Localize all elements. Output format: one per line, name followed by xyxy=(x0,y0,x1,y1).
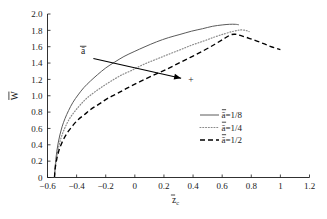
x-tick-label: 1 xyxy=(278,181,283,191)
y-tick-label: 1.6 xyxy=(31,42,43,52)
legend: ā=1/8ā=1/4ā=1/2 xyxy=(200,110,243,146)
y-tick-label: 2.0 xyxy=(31,9,43,19)
annotation-arrow-line xyxy=(93,59,181,79)
series-line-3 xyxy=(54,34,280,177)
y-tick-label: 0.8 xyxy=(31,107,43,117)
y-tick-label: 1.8 xyxy=(31,26,43,36)
a-bar-annotation-label: ā xyxy=(81,46,86,56)
y-axis-title: W xyxy=(10,91,20,100)
y-tick-label: 0.4 xyxy=(31,140,43,150)
annotations-layer: ā+ xyxy=(80,46,194,85)
x-tick-label: 0.4 xyxy=(187,181,199,191)
figure-container: 00.20.40.60.81.01.21.41.61.82.0−0.6−0.4−… xyxy=(0,0,327,219)
legend-label-3: ā=1/2 xyxy=(222,135,243,145)
tick-marks-layer xyxy=(48,14,310,178)
x-axis-title: zc xyxy=(172,195,179,206)
y-tick-label: 0.6 xyxy=(31,124,43,134)
x-tick-label: 0.8 xyxy=(246,181,258,191)
legend-label-2: ā=1/4 xyxy=(222,123,243,133)
plus-marker: + xyxy=(188,75,193,85)
x-tick-label: 0 xyxy=(133,181,138,191)
axes-layer xyxy=(48,14,310,178)
data-series-layer xyxy=(54,24,280,177)
y-tick-label: 1.2 xyxy=(31,75,42,85)
x-tick-label: −0.4 xyxy=(68,181,85,191)
y-tick-label: 1.4 xyxy=(31,58,43,68)
line-chart: 00.20.40.60.81.01.21.41.61.82.0−0.6−0.4−… xyxy=(0,0,327,219)
x-tick-label: −0.6 xyxy=(39,181,56,191)
x-tick-label: 0.2 xyxy=(158,181,169,191)
annotation-arrow-head xyxy=(174,74,181,80)
x-tick-label: 0.6 xyxy=(217,181,229,191)
y-tick-label: 0.2 xyxy=(31,156,42,166)
y-tick-label: 1.0 xyxy=(31,91,43,101)
x-tick-label: 1.2 xyxy=(304,181,315,191)
legend-label-1: ā=1/8 xyxy=(222,110,243,120)
x-tick-label: −0.2 xyxy=(98,181,114,191)
